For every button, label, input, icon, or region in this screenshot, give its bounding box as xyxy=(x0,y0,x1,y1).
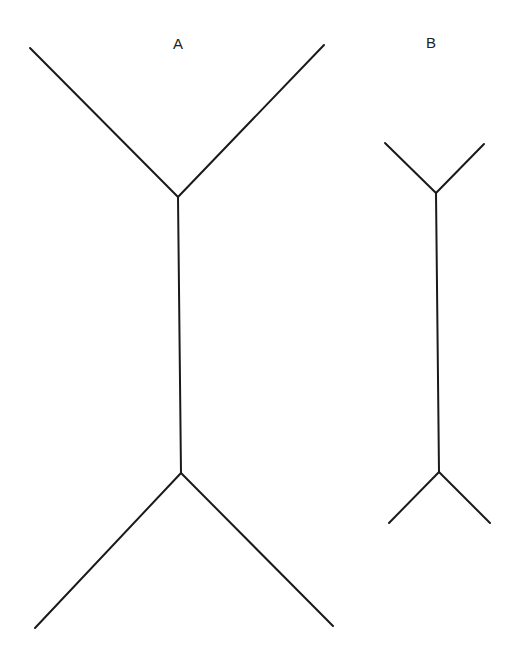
figure-b-fin xyxy=(385,143,436,193)
figure-a xyxy=(30,45,333,628)
figure-b-fin xyxy=(439,472,490,523)
figure-b-fin xyxy=(389,472,439,523)
figure-a-fin xyxy=(181,473,333,626)
figure-a-label: A xyxy=(173,36,183,51)
figure-a-fin xyxy=(30,48,178,197)
figure-a-shaft xyxy=(178,197,181,473)
figure-b-fin xyxy=(436,144,484,193)
diagram-canvas: A B xyxy=(0,0,517,659)
figure-b xyxy=(385,143,490,523)
figure-a-fin xyxy=(178,45,324,197)
muller-lyer-figure xyxy=(0,0,517,659)
figure-a-fin xyxy=(35,473,181,628)
figure-b-shaft xyxy=(436,193,439,472)
figure-b-label: B xyxy=(426,35,436,50)
